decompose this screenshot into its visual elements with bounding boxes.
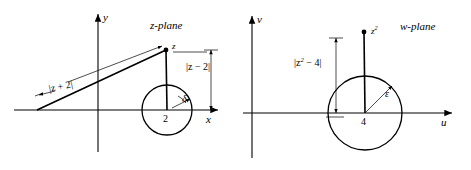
w-plane-point-label: z2	[371, 25, 378, 36]
w-plane-title-text: w-plane	[400, 20, 435, 32]
w-plane-point-z2-dot	[362, 30, 367, 35]
z-plane-delta-arrow	[172, 99, 190, 108]
w-plane-u-axis-label: u	[441, 117, 447, 128]
z-plane-delta-label: δ	[182, 94, 187, 104]
w-plane-epsilon-label: ε	[385, 89, 389, 99]
z-plane-point-label: z	[172, 42, 176, 51]
w-plane-segment-z2-minus-4	[364, 33, 365, 113]
w-plane-center-label: 4	[361, 117, 366, 127]
z-plane-y-axis-label: y	[103, 12, 108, 23]
z-plane-title-text: z-plane	[150, 19, 182, 31]
z-plane-title: z-plane	[150, 20, 182, 31]
z-plane-leader-z-plus-2	[68, 46, 162, 82]
z-plane-x-axis-label: x	[206, 114, 211, 125]
z-plane-point-z-dot	[164, 48, 169, 53]
w-plane-distance-tail: − 4|	[304, 57, 322, 68]
z-plane-center-label: 2	[163, 114, 168, 124]
w-plane-point-label-exponent: 2	[375, 25, 378, 31]
w-plane-group	[243, 16, 452, 158]
z-plane-segment-z-minus-2	[166, 50, 167, 110]
z-plane-distance-z-minus-2-label: |z − 2|	[186, 62, 210, 72]
z-plane-group	[14, 14, 218, 152]
complex-plane-figure: z-plane x y z 2 δ |z + 2| |z − 2| w-plan…	[0, 0, 471, 170]
w-plane-v-axis-label: v	[257, 14, 262, 25]
z-plane-segment-z-plus-2	[37, 50, 166, 110]
w-plane-title: w-plane	[400, 21, 435, 32]
w-plane-distance-z2-minus-4-label: |z2 − 4|	[294, 57, 322, 68]
